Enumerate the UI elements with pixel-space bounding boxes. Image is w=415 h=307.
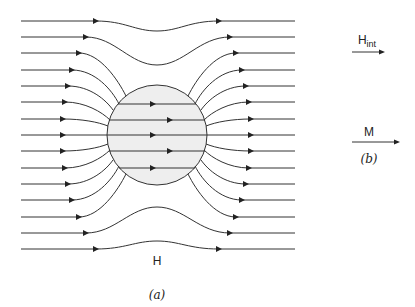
field-line-12 [21,174,126,217]
field-line-14 [21,241,295,249]
field-line-1 [21,37,295,65]
field-line-4 [21,86,113,110]
field-line-8 [21,144,108,151]
panel-a-caption: (a) [149,289,166,301]
field-line-11 [21,166,119,200]
field-line-2 [21,53,126,96]
magnetization-arrow [352,140,400,145]
field-line-10 [21,160,113,184]
applied-field-label: H [153,255,162,267]
panel-b-caption: (b) [360,153,377,165]
field-line-9 [21,150,110,168]
magnetization-label: M [364,126,374,138]
hint-arrow [352,50,385,55]
field-line-3 [21,70,119,104]
field-line-6 [21,119,108,126]
field-line-0 [21,21,295,31]
internal-field-label: Hint [358,34,376,49]
field-line-5 [21,102,110,120]
field-line-13 [21,207,295,233]
field-lines-diagram [0,0,415,307]
